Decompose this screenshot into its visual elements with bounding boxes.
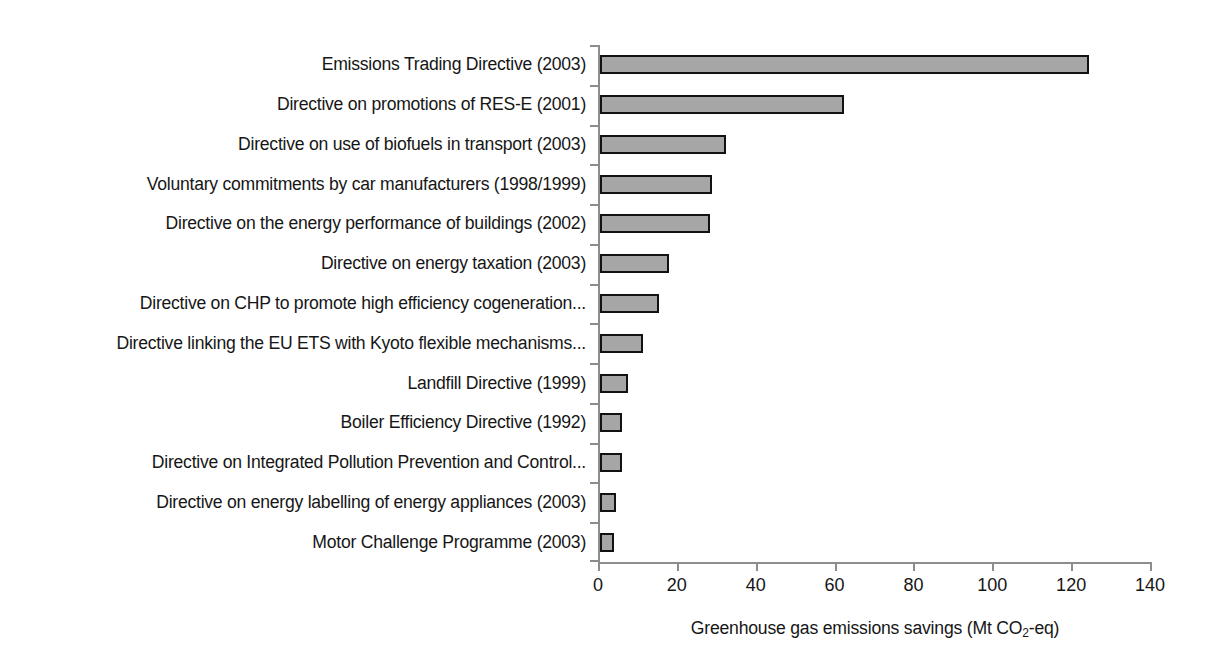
category-label: Directive on Integrated Pollution Preven… — [152, 453, 586, 472]
bar — [600, 55, 1089, 74]
x-axis-tick-label: 20 — [667, 575, 687, 596]
bar-row — [600, 363, 628, 403]
bar-row — [600, 85, 844, 125]
x-axis-tick-label: 80 — [903, 575, 923, 596]
x-axis: 020406080100120140 — [598, 562, 1152, 564]
x-axis-tick — [1071, 562, 1073, 571]
category-tick — [590, 125, 598, 127]
category-label: Directive on energy labelling of energy … — [156, 493, 586, 512]
category-label-row: Directive on promotions of RES-E (2001) — [0, 85, 586, 125]
category-tick — [590, 443, 598, 445]
bar-row — [600, 403, 622, 443]
x-axis-tick — [756, 562, 758, 571]
bar — [600, 334, 643, 353]
bar — [600, 135, 726, 154]
x-axis-title-main: Greenhouse gas emissions savings (Mt CO — [691, 618, 1023, 638]
category-label: Directive on the energy performance of b… — [166, 214, 586, 233]
bar-row — [600, 482, 616, 522]
bar-row — [600, 45, 1089, 85]
bar — [600, 175, 712, 194]
category-tick — [590, 284, 598, 286]
x-axis-tick-label: 0 — [593, 575, 603, 596]
category-label-row: Landfill Directive (1999) — [0, 363, 586, 403]
bar — [600, 493, 616, 512]
category-tick — [590, 522, 598, 524]
category-tick — [590, 204, 598, 206]
category-tick — [590, 363, 598, 365]
bar-row — [600, 204, 710, 244]
bar — [600, 254, 669, 273]
category-tick — [590, 403, 598, 405]
category-label-row: Directive linking the EU ETS with Kyoto … — [0, 323, 586, 363]
category-label: Emissions Trading Directive (2003) — [322, 55, 586, 74]
category-label-row: Motor Challenge Programme (2003) — [0, 522, 586, 562]
bar — [600, 374, 628, 393]
category-label: Motor Challenge Programme (2003) — [312, 533, 586, 552]
bar — [600, 453, 622, 472]
category-label-row: Boiler Efficiency Directive (1992) — [0, 403, 586, 443]
bar-row — [600, 323, 643, 363]
bar — [600, 294, 659, 313]
category-tick — [590, 164, 598, 166]
plot-area — [598, 45, 1150, 562]
category-label-row: Emissions Trading Directive (2003) — [0, 45, 586, 85]
ghg-savings-bar-chart: Emissions Trading Directive (2003)Direct… — [0, 0, 1220, 661]
category-label-row: Directive on the energy performance of b… — [0, 204, 586, 244]
bar — [600, 214, 710, 233]
category-label: Landfill Directive (1999) — [407, 374, 586, 393]
bar-row — [600, 244, 669, 284]
category-label: Voluntary commitments by car manufacture… — [147, 175, 586, 194]
x-axis-tick-label: 140 — [1135, 575, 1165, 596]
bar — [600, 95, 844, 114]
category-label: Directive on energy taxation (2003) — [321, 254, 586, 273]
category-label-row: Voluntary commitments by car manufacture… — [0, 164, 586, 204]
x-axis-tick-label: 60 — [825, 575, 845, 596]
category-label: Directive linking the EU ETS with Kyoto … — [117, 334, 587, 353]
x-axis-tick-label: 120 — [1056, 575, 1086, 596]
bar-row — [600, 125, 726, 165]
category-label-row: Directive on use of biofuels in transpor… — [0, 125, 586, 165]
category-label-row: Directive on Integrated Pollution Preven… — [0, 443, 586, 483]
category-axis: Emissions Trading Directive (2003)Direct… — [0, 45, 592, 562]
x-axis-tick-label: 40 — [746, 575, 766, 596]
x-axis-tick — [992, 562, 994, 571]
bar — [600, 413, 622, 432]
category-tick — [590, 560, 598, 562]
bar-row — [600, 164, 712, 204]
x-axis-title: Greenhouse gas emissions savings (Mt CO2… — [598, 618, 1152, 640]
bar-row — [600, 284, 659, 324]
category-label: Directive on CHP to promote high efficie… — [140, 294, 586, 313]
category-label: Boiler Efficiency Directive (1992) — [341, 413, 586, 432]
x-axis-tick — [677, 562, 679, 571]
bar — [600, 533, 614, 552]
bar-row — [600, 522, 614, 562]
category-label-row: Directive on CHP to promote high efficie… — [0, 284, 586, 324]
x-axis-tick — [913, 562, 915, 571]
category-tick — [590, 244, 598, 246]
category-tick — [590, 323, 598, 325]
bar-row — [600, 443, 622, 483]
category-tick — [590, 45, 598, 47]
category-label: Directive on promotions of RES-E (2001) — [277, 95, 586, 114]
category-tick — [590, 85, 598, 87]
x-axis-tick-label: 100 — [977, 575, 1007, 596]
x-axis-tick — [598, 557, 600, 571]
x-axis-tick — [1150, 562, 1152, 571]
x-axis-title-suffix: -eq) — [1029, 618, 1060, 638]
category-label-row: Directive on energy labelling of energy … — [0, 482, 586, 522]
category-label-row: Directive on energy taxation (2003) — [0, 244, 586, 284]
x-axis-tick — [835, 562, 837, 571]
category-tick — [590, 482, 598, 484]
category-label: Directive on use of biofuels in transpor… — [238, 135, 586, 154]
